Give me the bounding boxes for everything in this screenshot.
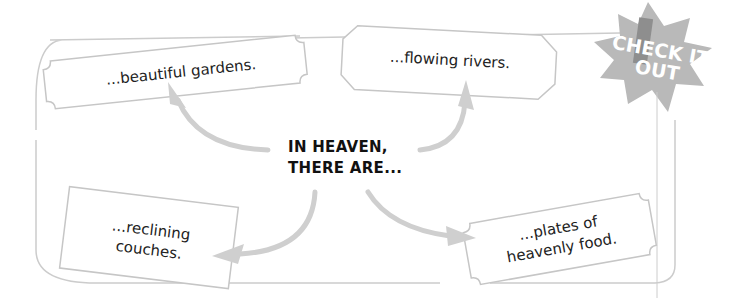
center-label-line1: IN HEAVEN, [288, 137, 428, 158]
center-label: IN HEAVEN, THERE ARE... [288, 137, 428, 179]
arrow-to-food [368, 192, 476, 246]
center-label-line2: THERE ARE... [288, 158, 428, 179]
heaven-diagram: ...beautiful gardens. ...flowing rivers.… [0, 0, 736, 298]
